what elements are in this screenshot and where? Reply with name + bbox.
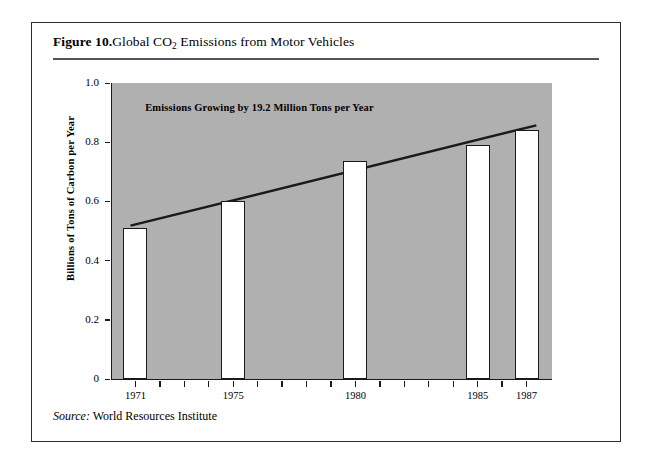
x-axis-tick-mark (281, 381, 282, 387)
y-axis-tick-label: 0.6 (65, 195, 99, 206)
y-axis-tick-label: 1.0 (65, 77, 99, 88)
x-axis-tick-mark (428, 381, 429, 387)
x-axis-tick-mark (330, 381, 331, 387)
y-axis-tick-label: 0 (65, 373, 99, 384)
x-axis-tick-mark (501, 381, 502, 387)
y-axis-tick-mark (105, 142, 110, 143)
x-axis-tick-label: 1975 (213, 390, 253, 401)
x-axis-tick-mark (404, 381, 405, 387)
x-axis-tick-mark (184, 381, 185, 387)
bar-1980 (343, 161, 367, 379)
x-axis-tick-mark (526, 381, 527, 387)
chart-plot: Billions of Tons of Carbon per Year Emis… (32, 23, 622, 443)
source-text: World Resources Institute (93, 409, 217, 423)
bar-1985 (466, 145, 490, 379)
x-axis-tick-mark (257, 381, 258, 387)
x-axis-tick-mark (477, 381, 478, 387)
source-label: Source: (53, 409, 90, 423)
y-axis-tick-mark (105, 379, 110, 380)
x-axis-tick-label: 1987 (507, 390, 547, 401)
x-axis-tick-mark (233, 381, 234, 387)
x-axis-tick-label: 1980 (335, 390, 375, 401)
bar-1987 (515, 130, 539, 379)
x-axis-tick-label: 1985 (458, 390, 498, 401)
y-axis-tick-label: 0.2 (65, 314, 99, 325)
x-axis-tick-mark (135, 381, 136, 387)
x-axis-tick-mark (453, 381, 454, 387)
trend-annotation-label: Emissions Growing by 19.2 Million Tons p… (145, 102, 374, 113)
y-axis-tick-mark (105, 83, 110, 84)
y-axis-tick-mark (105, 260, 110, 261)
y-axis-tick-mark (105, 201, 110, 202)
source-note: Source: World Resources Institute (53, 409, 217, 424)
x-axis-tick-mark (159, 381, 160, 387)
x-axis-tick-label: 1971 (115, 390, 155, 401)
y-axis-tick-label: 0.4 (65, 255, 99, 266)
x-axis-tick-mark (208, 381, 209, 387)
x-axis-tick-mark (355, 381, 356, 387)
bar-1975 (221, 201, 245, 379)
x-axis-tick-mark (379, 381, 380, 387)
x-axis-tick-mark (306, 381, 307, 387)
bar-1971 (123, 228, 147, 379)
figure-frame: Figure 10.Global CO2 Emissions from Moto… (31, 22, 621, 442)
y-axis-tick-label: 0.8 (65, 136, 99, 147)
y-axis-tick-mark (105, 319, 110, 320)
